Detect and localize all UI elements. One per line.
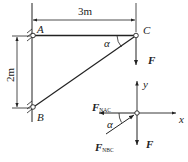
- x-axis-label: x: [178, 113, 184, 125]
- point-c-label: C: [143, 24, 151, 36]
- fbd-node: [135, 111, 139, 115]
- angle-label: α: [104, 37, 110, 49]
- point-b-label: B: [37, 111, 44, 123]
- fbd-angle-label: α: [107, 118, 113, 130]
- fbd-angle-arc: [119, 113, 122, 123]
- dimension-2m: 2m: [4, 36, 30, 108]
- truss-diagram: 3m 2m α A B C F x y FNAC FNBC α F: [0, 0, 188, 162]
- angle-arc-c: [117, 36, 122, 48]
- fbd-load-label: F: [145, 138, 154, 150]
- pin-b: [31, 105, 36, 110]
- y-axis-label: y: [142, 78, 148, 90]
- dim-3m-label: 3m: [78, 5, 93, 17]
- dim-2m-label: 2m: [4, 68, 16, 83]
- pin-c: [134, 33, 139, 38]
- wall: [27, 3, 32, 122]
- force-nbc-label: FNBC: [94, 141, 114, 153]
- free-body-diagram: x y FNAC FNBC α F: [91, 78, 184, 153]
- member-bc: [35, 37, 134, 106]
- force-nac-label: FNAC: [91, 101, 111, 113]
- point-a-label: A: [36, 23, 44, 35]
- dimension-3m: 3m: [33, 3, 136, 32]
- pin-a: [31, 33, 36, 38]
- load-label: F: [147, 54, 156, 66]
